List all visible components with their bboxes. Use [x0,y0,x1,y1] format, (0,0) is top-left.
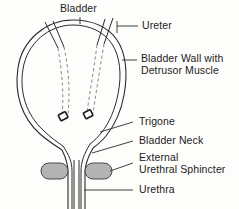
anatomy-diagram [0,0,239,209]
leader-line-external-sphincter [110,163,133,171]
bladder-inner-wall [22,25,73,146]
external-sphincter-left [41,163,68,179]
ureter-left-intramural-b [64,47,69,114]
label-urethra: Urethra [139,184,175,196]
label-bladder-wall-line2: Detrusor Muscle [141,64,219,76]
ureter-left-inner-edge [53,21,64,47]
label-external-sphincter: External Urethral Sphincter [139,152,237,175]
ureter-right-intramural-a [93,44,104,113]
label-bladder-neck: Bladder Neck [139,135,203,147]
label-trigone: Trigone [139,116,175,128]
ureteral-orifice-left [58,111,68,120]
bladder-anatomy-figure: Bladder Ureter Bladder Wall with Detruso… [0,0,239,209]
external-sphincter-right [85,163,112,179]
ureter-left-outer-edge [45,22,58,48]
bladder-outer-wall [17,20,73,150]
label-bladder: Bladder [60,3,97,15]
bladder-neck-left-outer [62,150,68,209]
ureter-left-intramural-a [58,48,63,115]
label-external-sphincter-line1: External [139,151,178,163]
leader-line-bladder-neck [92,141,133,153]
ureter-right-intramural-b [87,45,97,112]
label-bladder-wall-line1: Bladder Wall with [141,52,223,64]
ureteral-orifice-right [83,109,93,118]
label-bladder-wall: Bladder Wall with Detrusor Muscle [141,53,237,76]
ureter-right-inner-edge [97,19,105,45]
label-ureter: Ureter [142,20,172,32]
label-external-sphincter-line2: Urethral Sphincter [139,163,225,175]
bladder-outer-wall-right [73,20,126,148]
